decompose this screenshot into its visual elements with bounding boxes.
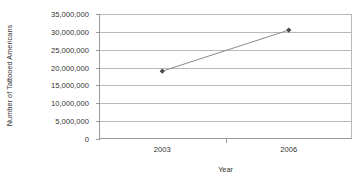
x-axis-tick-labels: 20032006 (99, 145, 352, 159)
y-axis-tick-label: 25,000,000 (51, 45, 89, 54)
plot-area (99, 14, 352, 139)
x-axis-tick-label: 2003 (154, 145, 171, 154)
y-axis-title: Number of Tattooed Americans (0, 0, 20, 150)
y-axis-tick-label: 0 (85, 135, 89, 144)
y-axis-tick-labels: 35,000,00030,000,00025,000,00020,000,000… (22, 14, 94, 139)
data-point-marker (286, 27, 291, 32)
series-line (162, 30, 289, 71)
x-axis-title: Year (99, 165, 352, 174)
y-axis-tick-mark (96, 139, 99, 140)
y-axis-title-label: Number of Tattooed Americans (6, 24, 15, 125)
data-point-marker (160, 69, 165, 74)
y-axis-tick-label: 20,000,000 (51, 63, 89, 72)
y-axis-tick-label: 30,000,000 (51, 27, 89, 36)
y-axis-tick-label: 15,000,000 (51, 81, 89, 90)
y-axis-tick-label: 35,000,000 (51, 10, 89, 19)
y-axis-tick-label: 5,000,000 (55, 117, 89, 126)
x-axis-tick-label: 2006 (280, 145, 297, 154)
x-axis-tick-mark (226, 139, 227, 143)
y-axis-tick-label: 10,000,000 (51, 99, 89, 108)
data-series (99, 14, 352, 139)
line-chart: Number of Tattooed Americans 35,000,0003… (0, 0, 355, 182)
